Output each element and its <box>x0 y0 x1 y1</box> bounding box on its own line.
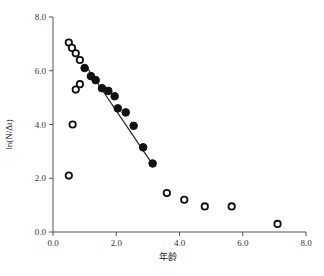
x-axis-title: 年龄 <box>159 251 177 262</box>
scatter-chart: 0.02.04.06.08.00.02.04.06.08.0年龄ln(N/Δt) <box>0 0 324 276</box>
open-data-point <box>77 57 83 63</box>
y-tick-label: 0.0 <box>35 227 47 237</box>
filled-data-point <box>105 87 113 95</box>
plot-area: 0.02.04.06.08.00.02.04.06.08.0年龄ln(N/Δt) <box>4 12 312 262</box>
open-data-point <box>73 50 79 56</box>
filled-data-point <box>114 105 122 113</box>
y-tick-label: 8.0 <box>35 12 47 22</box>
open-data-point <box>73 86 79 92</box>
open-data-point <box>202 203 208 209</box>
y-tick-label: 2.0 <box>35 173 47 183</box>
y-tick-label: 4.0 <box>35 120 47 130</box>
filled-data-point <box>130 122 138 130</box>
x-tick-label: 0.0 <box>47 238 59 248</box>
open-data-point <box>164 190 170 196</box>
y-axis-title: ln(N/Δt) <box>4 119 14 149</box>
filled-data-point <box>81 64 89 72</box>
x-tick-label: 4.0 <box>174 238 186 248</box>
filled-data-point <box>111 92 119 100</box>
filled-data-point <box>139 144 147 152</box>
open-data-point <box>66 172 72 178</box>
open-data-point <box>228 203 234 209</box>
x-tick-label: 6.0 <box>237 238 249 248</box>
y-tick-label: 6.0 <box>35 66 47 76</box>
open-data-point <box>69 121 75 127</box>
filled-data-point <box>92 76 100 84</box>
open-data-point <box>181 197 187 203</box>
x-tick-label: 2.0 <box>111 238 123 248</box>
filled-data-point <box>149 160 157 168</box>
x-tick-label: 8.0 <box>300 238 312 248</box>
filled-data-point <box>122 109 130 117</box>
open-data-point <box>274 221 280 227</box>
